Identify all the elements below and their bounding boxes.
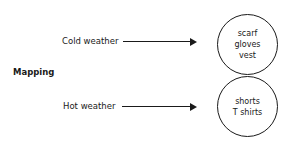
cold-weather-arrow (123, 41, 195, 42)
hot-weather-label: Hot weather (63, 101, 115, 111)
hot-weather-items-circle: shorts T shirts (217, 76, 278, 137)
cold-item: scarf (238, 28, 258, 39)
hot-item: shorts (235, 96, 260, 107)
cold-item: vest (239, 50, 256, 61)
cold-weather-items-circle: scarf gloves vest (217, 14, 278, 75)
diagram-title: Mapping (13, 67, 54, 77)
cold-weather-label: Cold weather (62, 36, 118, 46)
cold-item: gloves (234, 39, 260, 50)
hot-weather-arrow (122, 106, 195, 107)
hot-item: T shirts (233, 107, 262, 118)
